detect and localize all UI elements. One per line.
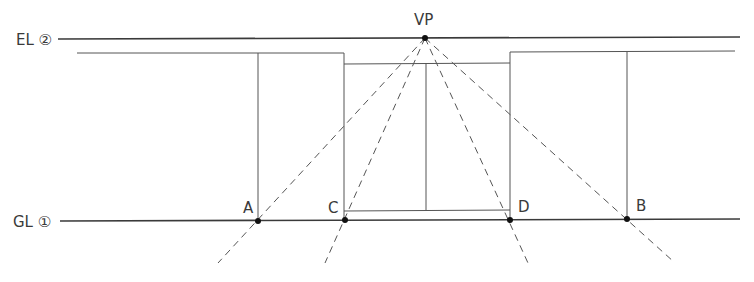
point-c-label: C	[328, 199, 338, 217]
vp-point	[422, 35, 428, 41]
point-d-dot	[507, 217, 513, 223]
vanishing-rays	[218, 38, 674, 263]
middle-block-outline	[344, 63, 510, 64]
point-a-label: A	[243, 199, 254, 217]
ray-through-d	[425, 38, 528, 263]
ray-through-a	[218, 38, 425, 263]
right-building-outline	[510, 51, 735, 219]
point-c-dot	[342, 217, 348, 223]
vp-label: VP	[414, 11, 433, 29]
ray-through-b	[425, 38, 674, 262]
point-d-label: D	[518, 198, 530, 216]
middle-block-bottom	[344, 210, 510, 211]
eye-level-label: EL ②	[16, 31, 52, 49]
point-a-dot	[255, 218, 261, 224]
left-building-outline	[77, 53, 344, 219]
eye-level-line	[58, 37, 740, 39]
ray-through-c	[325, 38, 425, 263]
ground-line	[60, 219, 740, 221]
perspective-diagram: EL ② GL ① VP A C D B	[0, 0, 754, 282]
point-b-dot	[624, 216, 630, 222]
ground-line-label: GL ①	[13, 213, 51, 231]
point-b-label: B	[636, 197, 646, 215]
